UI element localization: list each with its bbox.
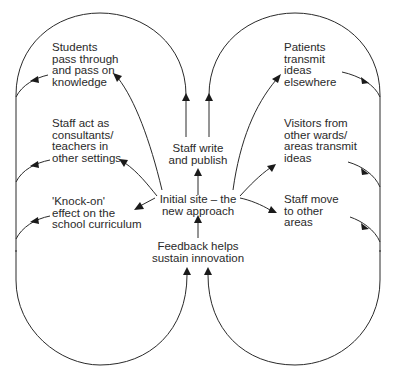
label-visitors: Visitors from other wards/ areas transmi… [284, 118, 357, 164]
arrow-head-conn-patients [361, 77, 369, 84]
connector-patients [342, 72, 380, 97]
arrow-head-feedback-left [183, 267, 191, 275]
arrow-initial-to-visitors [240, 168, 270, 196]
arrow-head-conn-students [30, 76, 39, 83]
connector-knockon [16, 216, 50, 239]
left-loop-lower [16, 250, 187, 365]
right-loop-lower [208, 250, 380, 365]
arrow-initial-to-students [118, 78, 162, 190]
arrow-head-up-left-loop [182, 93, 190, 101]
arrow-initial-to-patients [233, 80, 276, 190]
arrow-head-visitors [267, 164, 276, 172]
connector-staff-act [16, 160, 50, 182]
label-staff-act: Staff act as consultants/ teachers in ot… [52, 118, 121, 164]
arrow-head-up-right-loop [205, 93, 213, 101]
label-staff-write: Staff write and publish [162, 143, 234, 166]
arrow-head-staff-write [194, 168, 202, 176]
arrow-initial-to-staff-act [125, 163, 157, 196]
label-initial-site: Initial site – the new approach [148, 194, 248, 217]
arrow-head-feedback-right [204, 267, 212, 275]
label-patients: Patients transmit ideas elsewhere [284, 42, 336, 88]
label-feedback: Feedback helps sustain innovation [143, 241, 253, 264]
arrow-head-patients [272, 74, 281, 83]
label-staff-move: Staff move to other areas [284, 194, 339, 229]
label-knockon: 'Knock-on' effect on the school curricul… [52, 196, 141, 231]
label-students: Students pass through and pass on knowle… [52, 42, 119, 88]
connector-students [16, 75, 48, 97]
